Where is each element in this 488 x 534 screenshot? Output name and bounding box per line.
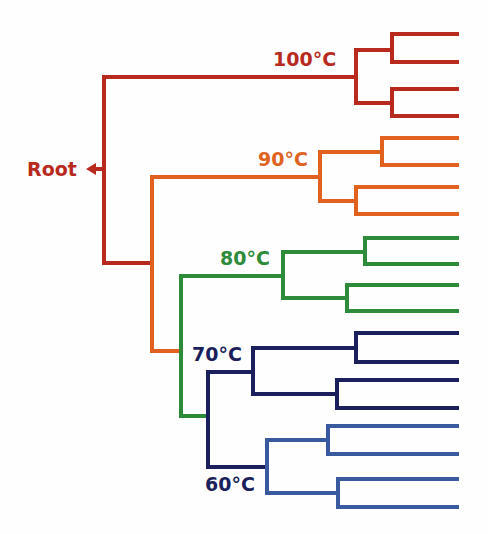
dendrogram: Root 100°C 90°C 80°C 70°C 60°C (0, 0, 488, 534)
root-label: Root (27, 160, 77, 179)
clade-label-80: 80°C (220, 249, 270, 268)
clade-label-60: 60°C (205, 475, 255, 494)
clade-70-branches (208, 333, 457, 467)
clade-60-branches (267, 426, 457, 507)
root-arrow-icon (86, 163, 96, 175)
clade-label-70: 70°C (192, 345, 242, 364)
clade-label-90: 90°C (258, 150, 308, 169)
clade-label-100: 100°C (273, 50, 336, 69)
